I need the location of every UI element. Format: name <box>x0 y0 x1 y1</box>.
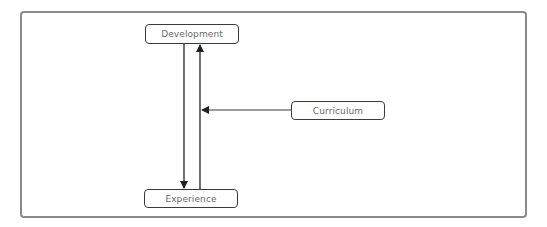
node-curriculum-label: Curriculum <box>313 106 363 116</box>
node-development-label: Development <box>161 29 223 39</box>
node-experience: Experience <box>144 189 238 208</box>
node-development: Development <box>145 24 239 44</box>
diagram-frame <box>20 11 527 218</box>
node-curriculum: Curriculum <box>291 101 385 120</box>
node-experience-label: Experience <box>165 194 216 204</box>
